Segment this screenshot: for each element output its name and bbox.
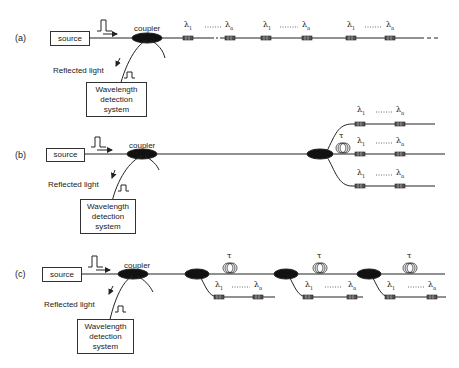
- panel-label-c: (c): [15, 269, 26, 279]
- detector-line: detection: [92, 212, 124, 222]
- lambda-label: λn: [386, 20, 394, 31]
- delay-label-c3: τ: [407, 251, 411, 260]
- detector-line: detection: [100, 95, 132, 105]
- lambda-label: λ1: [357, 136, 365, 147]
- source-box-a: source: [50, 31, 90, 46]
- source-box-b: source: [46, 148, 85, 162]
- detector-box-c: Wavelength detection system: [77, 319, 134, 354]
- detector-box-b: Wavelength detection system: [80, 199, 136, 234]
- coupler-label-c: coupler: [124, 261, 150, 270]
- detector-line: detection: [89, 332, 121, 342]
- reflected-label-a: Reflected light: [53, 66, 104, 75]
- detector-line: system: [95, 222, 120, 232]
- detector-line: Wavelength: [87, 202, 129, 212]
- source-box-c: source: [42, 267, 82, 282]
- panel-b: [83, 124, 445, 202]
- lambda-label: λn: [302, 20, 310, 31]
- lambda-label: λ1: [305, 280, 313, 291]
- lambda-label: λn: [396, 105, 404, 116]
- lambda-label: λn: [428, 280, 436, 291]
- delay-label-b: τ: [339, 131, 343, 140]
- lambda-label: λn: [396, 136, 404, 147]
- lambda-label: λ1: [215, 280, 223, 291]
- lambda-label: λ1: [263, 20, 271, 31]
- delay-label-c2: τ: [317, 251, 321, 260]
- lambda-label: λ1: [184, 20, 192, 31]
- lambda-label: λn: [348, 280, 356, 291]
- coupler-label-b: coupler: [129, 141, 155, 150]
- detector-line: system: [104, 105, 129, 115]
- detector-line: system: [93, 342, 118, 352]
- coupler-label-a: coupler: [134, 24, 160, 33]
- lambda-label: λ1: [387, 280, 395, 291]
- panel-label-b: (b): [15, 150, 26, 160]
- delay-label-c1: τ: [227, 251, 231, 260]
- reflected-label-b: Reflected light: [48, 180, 99, 189]
- lambda-label: λn: [396, 168, 404, 179]
- detector-line: Wavelength: [85, 322, 127, 332]
- panel-label-a: (a): [15, 33, 26, 43]
- lambda-label: λ1: [347, 20, 355, 31]
- detector-line: Wavelength: [96, 85, 138, 95]
- reflected-label-c: Reflected light: [44, 300, 95, 309]
- lambda-label: λn: [254, 280, 262, 291]
- lambda-label: λn: [225, 20, 233, 31]
- detector-box-a: Wavelength detection system: [86, 82, 147, 117]
- lambda-label: λ1: [357, 168, 365, 179]
- lambda-label: λ1: [357, 105, 365, 116]
